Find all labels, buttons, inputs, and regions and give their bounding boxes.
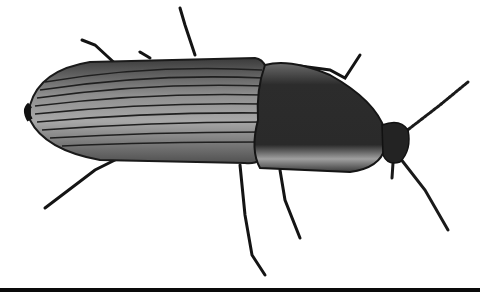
beetle-photo (0, 0, 480, 302)
head (382, 122, 409, 163)
pronotum (254, 63, 385, 172)
baseline-rule (0, 288, 480, 292)
beetle-illustration (0, 0, 480, 302)
